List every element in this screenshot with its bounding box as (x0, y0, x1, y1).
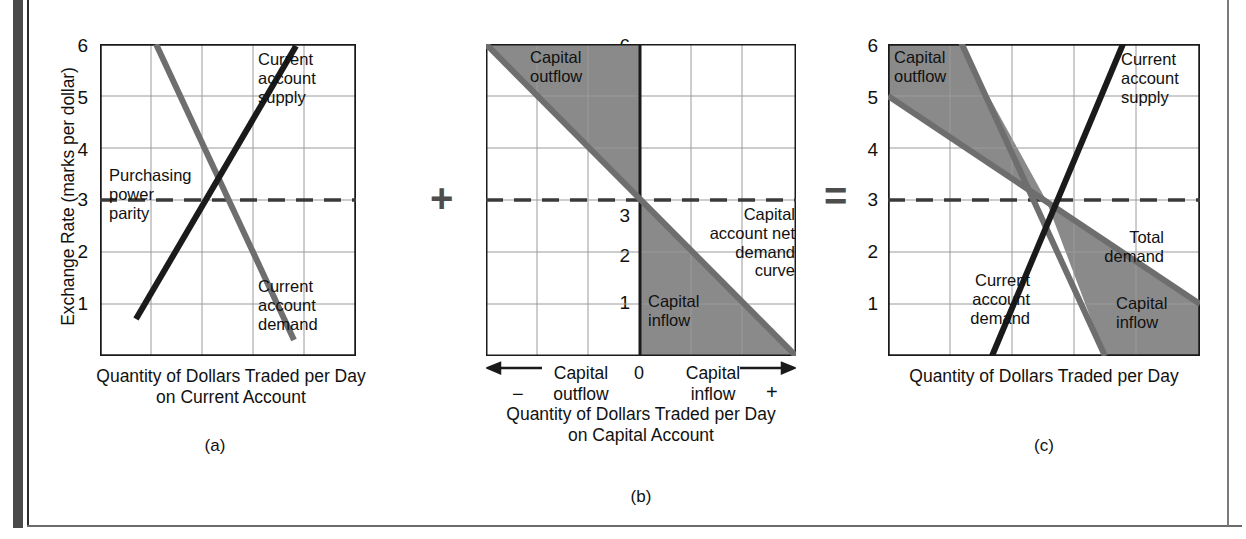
panel-c-xaxis-caption-line1: Quantity of Dollars Traded per Day (859, 366, 1229, 387)
panel-c-ytick-2: 2 (852, 242, 878, 261)
panel-c-ytick-4: 4 (852, 140, 878, 159)
panel-c-label-inflow: Capital inflow (1116, 294, 1167, 332)
panel-c: 6 5 4 3 2 1 (0, 0, 1246, 539)
panel-c-ytick-1: 1 (852, 294, 878, 313)
panel-c-label-total-demand: Total demand (1050, 228, 1164, 266)
panel-c-label-supply: Current account supply (1121, 50, 1179, 106)
panel-c-label-ca-demand: Current account demand (920, 271, 1030, 327)
panel-c-letter: (c) (1019, 436, 1069, 456)
panel-c-label-outflow: Capital outflow (894, 48, 946, 86)
panel-c-ytick-3: 3 (852, 190, 878, 209)
panel-c-ytick-6: 6 (852, 36, 878, 55)
panel-c-ytick-5: 5 (852, 88, 878, 107)
figure-root: Exchange Rate (marks per dollar) 6 5 4 3… (0, 0, 1246, 539)
